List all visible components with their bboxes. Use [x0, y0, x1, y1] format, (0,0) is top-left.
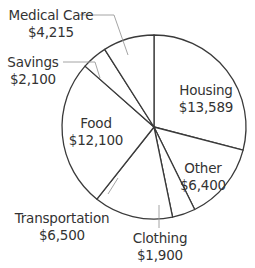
- label-transportation: Transportation $6,500: [15, 210, 110, 244]
- savings-value: $2,100: [7, 71, 58, 88]
- other-value: $6,400: [180, 177, 226, 194]
- transportation-name: Transportation: [15, 210, 110, 227]
- medical-care-name: Medical Care: [9, 7, 94, 24]
- housing-value: $13,589: [179, 99, 233, 116]
- savings-name: Savings: [7, 54, 58, 71]
- label-savings: Savings $2,100: [7, 54, 58, 88]
- label-housing: Housing $13,589: [179, 82, 233, 116]
- food-name: Food: [69, 115, 123, 132]
- clothing-name: Clothing: [133, 230, 188, 247]
- other-name: Other: [180, 160, 226, 177]
- food-value: $12,100: [69, 132, 123, 149]
- medical-care-value: $4,215: [9, 24, 94, 41]
- label-food: Food $12,100: [69, 115, 123, 149]
- label-medical-care: Medical Care $4,215: [9, 7, 94, 41]
- label-clothing: Clothing $1,900: [133, 230, 188, 264]
- clothing-value: $1,900: [133, 247, 188, 264]
- label-other: Other $6,400: [180, 160, 226, 194]
- housing-name: Housing: [179, 82, 233, 99]
- transportation-value: $6,500: [15, 227, 110, 244]
